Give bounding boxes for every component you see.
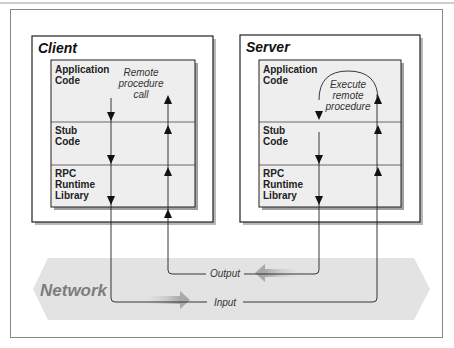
client-title: Client bbox=[38, 40, 78, 56]
client-stub-layer: StubCode bbox=[55, 125, 80, 147]
network-label: Network bbox=[40, 281, 109, 300]
server-title: Server bbox=[246, 39, 291, 55]
server-box: Server ApplicationCode StubCode RPCRunti… bbox=[240, 35, 423, 225]
input-label: Input bbox=[214, 297, 237, 308]
client-box: Client ApplicationCode StubCode RPCRunti… bbox=[32, 36, 216, 225]
server-stub-layer: StubCode bbox=[263, 125, 288, 147]
output-label: Output bbox=[210, 268, 241, 279]
rpc-diagram: Network Client ApplicationCode StubCode … bbox=[0, 0, 454, 348]
